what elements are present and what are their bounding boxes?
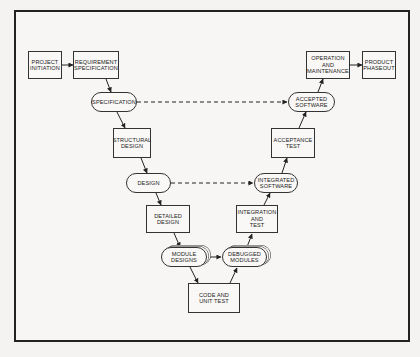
node-detailed-design: DETAILED DESIGN	[146, 205, 190, 233]
node-project-initiation: PROJECT INITIATION	[28, 51, 62, 79]
arrow-integration-to-integrated	[264, 193, 270, 205]
node-module-designs: MODULE DESIGNS	[161, 247, 207, 267]
node-operation-and-maintenance: OPERATION AND MAINTENANCE	[306, 51, 350, 79]
arrow-code-to-debugged	[230, 268, 237, 283]
node-integrated-software: INTEGRATED SOFTWARE	[254, 173, 298, 193]
arrow-module-to-code	[190, 267, 198, 283]
arrow-design-to-detailed	[156, 193, 161, 205]
node-accepted-software: ACCEPTED SOFTWARE	[288, 92, 335, 112]
arrow-structural-to-design	[141, 158, 147, 173]
arrow-specification-to-structural	[117, 112, 125, 128]
node-structural-design: STRUCTURAL DESIGN	[113, 128, 151, 158]
arrow-accepted-to-operation	[318, 79, 323, 92]
node-acceptance-test: ACCEPTANCE TEST	[271, 128, 315, 158]
node-specification: SPECIFICATION	[91, 92, 137, 112]
node-product-phaseout: PRODUCT PHASEOUT	[362, 51, 396, 79]
node-design: DESIGN	[126, 173, 171, 193]
node-debugged-modules: DEBUGGED MODULES	[222, 247, 267, 267]
node-integration-and-test: INTEGRATION AND TEST	[236, 205, 278, 233]
arrow-detailed-to-module	[174, 233, 180, 247]
node-code-and-unit-test: CODE AND UNIT TEST	[188, 283, 240, 313]
arrow-acceptance-to-accepted	[299, 112, 306, 128]
arrow-debugged-to-integration	[247, 234, 252, 247]
arrow-requirement-to-specification	[106, 79, 111, 92]
node-requirement-specification: REQUIREMENT SPECIFICATION	[73, 51, 119, 79]
arrow-integrated-to-acceptance	[282, 158, 287, 173]
